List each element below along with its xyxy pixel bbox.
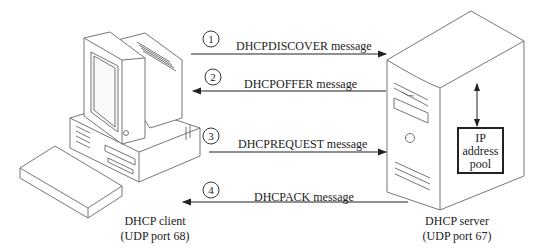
client-computer-icon [20,32,200,218]
server-caption-line1: DHCP server [425,214,489,228]
server-tower-icon [387,11,524,210]
step-number: 1 [208,33,214,45]
pool-label-line2: address [463,144,499,158]
server-caption-line2: (UDP port 67) [423,229,492,243]
message-label: DHCPDISCOVER message [236,39,372,53]
message-1: 1 DHCPDISCOVER message [191,31,386,54]
client-caption-line2: (UDP port 68) [121,229,190,243]
dhcp-diagram: IP address pool 1 DHCPDISCOVER message 2… [0,0,541,252]
message-2: 2 DHCPOFFER message [193,69,386,91]
client-caption-line1: DHCP client [124,214,186,228]
message-3: 3 DHCPREQUEST message [203,128,386,152]
message-4: 4 DHCPACK message [183,182,408,204]
pool-label-line1: IP [475,131,486,145]
client-caption: DHCP client (UDP port 68) [121,214,190,243]
pool-label-line3: pool [470,157,492,171]
step-number: 2 [210,71,216,83]
step-number: 4 [208,184,214,196]
message-label: DHCPREQUEST message [238,137,367,151]
server-caption: DHCP server (UDP port 67) [423,214,492,243]
step-number: 3 [208,130,214,142]
message-label: DHCPOFFER message [244,77,357,91]
